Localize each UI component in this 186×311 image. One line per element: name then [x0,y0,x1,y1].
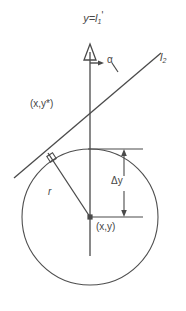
tangent-line-l2 [14,53,161,178]
figure-title-prime: ' [101,10,102,21]
point-on-line-label: (x,y*) [30,99,53,109]
geometric-diagram-figure: y=l1' α l2 (x,y*) Δy r (x,y) [0,0,186,311]
center-point-marker [87,214,92,219]
figure-title-lead: y=l [83,12,97,24]
center-point-label: (x,y) [96,222,115,232]
diagram-canvas [0,0,186,311]
figure-title: y=l1' [0,11,186,25]
axis-direction-arrow-icon [98,60,104,65]
line-l2-label: l2 [160,52,166,64]
delta-y-down-arrowhead-icon [121,210,127,217]
delta-y-label: Δy [111,176,123,186]
radius-label: r [48,187,51,197]
line-l2-subscript: 2 [162,57,166,64]
delta-y-up-arrowhead-icon [121,149,127,156]
angle-alpha-label: α [107,55,113,65]
radius-line [48,153,90,217]
